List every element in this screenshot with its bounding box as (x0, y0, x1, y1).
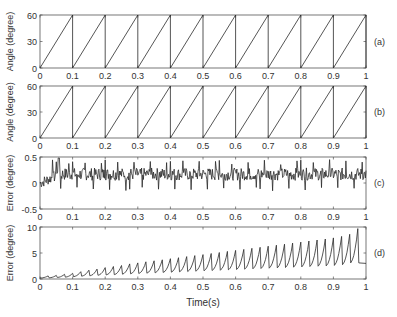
x-tick-label: 0.6 (229, 71, 242, 81)
data-line (40, 229, 366, 278)
x-tick-label: 0.1 (66, 71, 79, 81)
y-axis-label: Angle (degree) (5, 12, 15, 72)
y-tick-label: 60 (27, 82, 37, 92)
x-tick-label: 0 (37, 282, 42, 292)
x-tick-label: 1 (363, 71, 368, 81)
y-tick-label: 5 (32, 249, 37, 259)
x-tick-label: 0.8 (295, 282, 308, 292)
panel-d: 00.10.20.30.40.50.60.70.80.910510Error (… (5, 223, 385, 293)
axes-box (40, 157, 366, 209)
figure: 00.10.20.30.40.50.60.70.80.9103060Angle … (0, 0, 397, 317)
x-tick-label: 0.8 (295, 71, 308, 81)
x-tick-label: 0.5 (197, 212, 210, 222)
x-tick-label: 0.1 (66, 282, 79, 292)
y-tick-label: 10 (27, 223, 37, 233)
x-tick-label: 0.8 (295, 212, 308, 222)
y-axis-label: Angle (degree) (5, 82, 15, 142)
panel-label: (a) (374, 37, 385, 47)
y-tick-label: 0 (32, 179, 37, 189)
y-tick-label: 0 (32, 275, 37, 285)
x-tick-label: 0.1 (66, 212, 79, 222)
y-tick-label: 0 (32, 64, 37, 74)
y-tick-label: -0.5 (21, 205, 37, 215)
y-axis-label: Error (degree) (5, 155, 15, 212)
data-line (40, 86, 366, 138)
x-tick-label: 1 (363, 282, 368, 292)
panel-a: 00.10.20.30.40.50.60.70.80.9103060Angle … (5, 11, 385, 82)
x-tick-label: 0.4 (164, 71, 177, 81)
y-tick-label: 0 (32, 134, 37, 144)
x-tick-label: 0.2 (99, 71, 112, 81)
x-tick-label: 0.4 (164, 282, 177, 292)
x-tick-label: 0 (37, 141, 42, 151)
x-tick-label: 0.5 (197, 282, 210, 292)
y-tick-label: 30 (27, 108, 37, 118)
y-axis-label: Error (degree) (5, 225, 15, 282)
data-line (40, 15, 366, 68)
panel-label: (b) (374, 107, 385, 117)
data-line (40, 158, 366, 191)
x-tick-label: 0.3 (132, 71, 145, 81)
x-tick-label: 0.9 (327, 141, 340, 151)
x-tick-label: 0.9 (327, 212, 340, 222)
x-tick-label: 0.9 (327, 71, 340, 81)
x-tick-label: 0.3 (132, 282, 145, 292)
x-tick-label: 0.4 (164, 212, 177, 222)
x-tick-label: 0.5 (197, 71, 210, 81)
x-tick-label: 0.2 (99, 282, 112, 292)
chart-svg: 00.10.20.30.40.50.60.70.80.9103060Angle … (0, 0, 397, 317)
x-tick-label: 1 (363, 212, 368, 222)
x-tick-label: 0.3 (132, 141, 145, 151)
x-tick-label: 0.2 (99, 141, 112, 151)
y-tick-label: 0.5 (24, 153, 37, 163)
x-tick-label: 0.6 (229, 282, 242, 292)
y-tick-label: 60 (27, 11, 37, 21)
x-tick-label: 0 (37, 212, 42, 222)
x-tick-label: 0.3 (132, 212, 145, 222)
x-tick-label: 0.6 (229, 212, 242, 222)
panel-label: (d) (374, 248, 385, 258)
x-axis-label: Time(s) (186, 297, 220, 308)
x-tick-label: 0.5 (197, 141, 210, 151)
x-tick-label: 0.7 (262, 141, 275, 151)
y-tick-label: 30 (27, 37, 37, 47)
x-tick-label: 0.7 (262, 212, 275, 222)
panel-c: 00.10.20.30.40.50.60.70.80.91-0.500.5Err… (5, 153, 385, 223)
x-tick-label: 0 (37, 71, 42, 81)
x-tick-label: 0.1 (66, 141, 79, 151)
x-tick-label: 0.7 (262, 282, 275, 292)
x-tick-label: 0.9 (327, 282, 340, 292)
x-tick-label: 0.8 (295, 141, 308, 151)
panel-b: 00.10.20.30.40.50.60.70.80.9103060Angle … (5, 82, 385, 152)
panel-label: (c) (374, 178, 385, 188)
x-tick-label: 1 (363, 141, 368, 151)
x-tick-label: 0.7 (262, 71, 275, 81)
x-tick-label: 0.2 (99, 212, 112, 222)
x-tick-label: 0.4 (164, 141, 177, 151)
x-tick-label: 0.6 (229, 141, 242, 151)
